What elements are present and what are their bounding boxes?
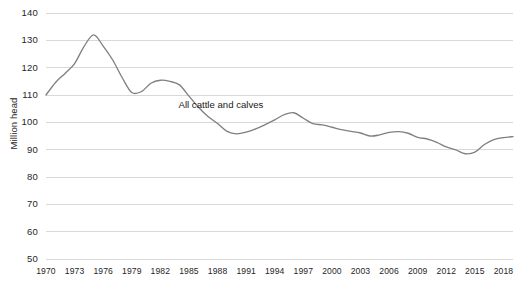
series-annotation-label: All cattle and calves: [179, 99, 264, 110]
series-group: [46, 35, 513, 154]
plot-area: [0, 0, 523, 287]
line-chart: Million head 1401301201101009080706050 1…: [0, 0, 523, 287]
series-line: [46, 35, 513, 154]
gridlines: [46, 13, 513, 259]
